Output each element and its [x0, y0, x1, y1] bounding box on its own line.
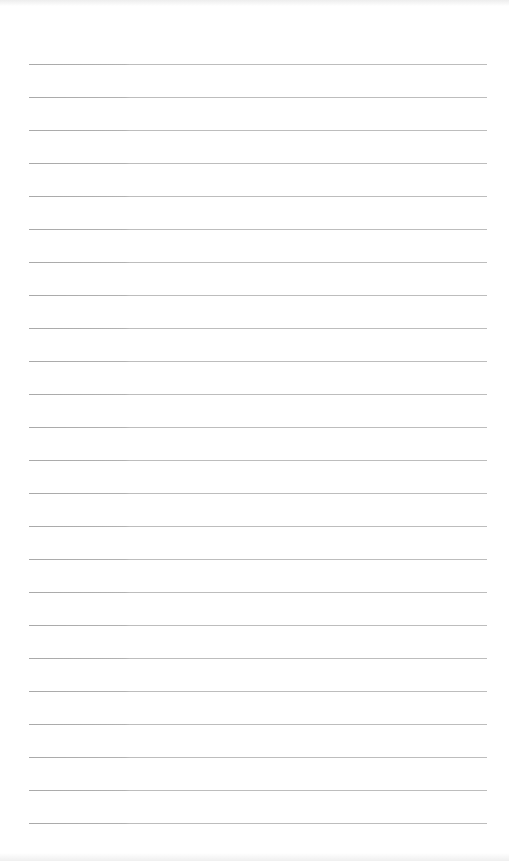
ruled-line: [29, 130, 487, 131]
ruled-line: [29, 196, 487, 197]
ruled-line: [29, 328, 487, 329]
ruled-lines-area: [29, 0, 487, 861]
ruled-line: [29, 592, 487, 593]
scan-edge-bottom: [0, 853, 509, 861]
ruled-line: [29, 757, 487, 758]
ruled-line: [29, 361, 487, 362]
ruled-line: [29, 625, 487, 626]
ruled-line: [29, 460, 487, 461]
ruled-line: [29, 823, 487, 824]
ruled-line: [29, 262, 487, 263]
ruled-line: [29, 163, 487, 164]
ruled-line: [29, 658, 487, 659]
ruled-line: [29, 493, 487, 494]
ruled-line: [29, 394, 487, 395]
ruled-line: [29, 526, 487, 527]
ruled-line: [29, 97, 487, 98]
ruled-line: [29, 64, 487, 65]
ruled-line: [29, 559, 487, 560]
ruled-line: [29, 295, 487, 296]
ruled-line: [29, 229, 487, 230]
lined-paper-page: [0, 0, 509, 861]
ruled-line: [29, 790, 487, 791]
ruled-line: [29, 427, 487, 428]
ruled-line: [29, 691, 487, 692]
ruled-line: [29, 724, 487, 725]
